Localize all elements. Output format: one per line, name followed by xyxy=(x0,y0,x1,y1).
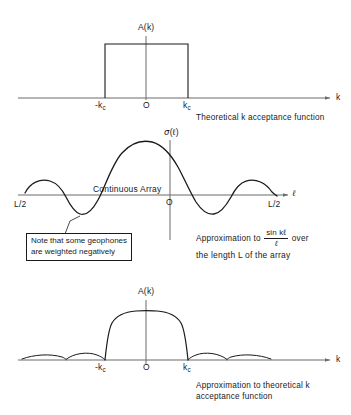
figure-container: A(k) k -kc O kc Theoretical k acceptance… xyxy=(0,0,351,415)
sinc-fraction: sin kℓ ℓ xyxy=(264,228,288,248)
top-x-axis-arrow xyxy=(325,96,330,100)
bottom-caption-line-1: Approximation to theoretical k xyxy=(196,381,310,390)
left-outer-sidelobe xyxy=(22,355,66,360)
bottom-caption-line-2: acceptance function xyxy=(196,392,310,401)
mid-right-end-label: L/2 xyxy=(268,200,280,210)
right-inner-sidelobe xyxy=(188,353,227,359)
sinc-weighting-curve xyxy=(25,141,277,214)
panel-continuous-array-weighting: σ(ℓ) ℓ Continuous Array O L/2 L/2 Note t… xyxy=(0,120,351,270)
bottom-x-axis-label: k xyxy=(336,355,340,365)
bottom-tick-label-origin: O xyxy=(143,363,150,373)
top-panel-plot xyxy=(0,0,351,120)
top-x-axis-label: k xyxy=(336,93,340,103)
bottom-tick-kc-sub: c xyxy=(187,366,190,373)
mid-caption-prefix: Approximation to xyxy=(196,234,261,243)
bottom-x-axis-arrow xyxy=(325,358,330,362)
mid-y-axis-label: σ(ℓ) xyxy=(164,128,179,138)
right-outer-sidelobe xyxy=(227,355,271,360)
top-tick-label-origin: O xyxy=(143,101,150,111)
mid-panel-caption: Approximation to sin kℓ ℓ over the lengt… xyxy=(196,229,309,261)
continuous-array-label: Continuous Array xyxy=(93,185,161,195)
fraction-denominator: ℓ xyxy=(264,239,288,248)
bottom-tick-label-kc: kc xyxy=(183,363,191,373)
panel-theoretical-acceptance: A(k) k -kc O kc Theoretical k acceptance… xyxy=(0,0,351,120)
top-tick-kc-sub: c xyxy=(187,104,190,111)
bottom-y-axis-label: A(k) xyxy=(138,287,154,297)
mid-left-end-label: L/2 xyxy=(14,200,26,210)
top-tick-label-minus-kc: -kc xyxy=(95,101,106,111)
bottom-tick-label-minus-kc: -kc xyxy=(95,363,106,373)
geophone-note-callout: Note that some geophones are weighted ne… xyxy=(26,233,132,261)
mid-caption-line-1: Approximation to sin kℓ ℓ over xyxy=(196,229,309,249)
sigma-argument: (ℓ) xyxy=(170,127,179,137)
callout-line-2: are weighted negatively xyxy=(31,247,127,258)
callout-line-1: Note that some geophones xyxy=(31,236,127,247)
top-tick-label-kc: kc xyxy=(183,101,191,111)
mid-caption-suffix: over xyxy=(292,234,309,243)
panel-approximated-acceptance: A(k) k -kc O kc Approximation to theoret… xyxy=(0,268,351,415)
mid-x-axis-label: ℓ xyxy=(292,189,296,199)
top-tick-minus-kc-sub: c xyxy=(102,104,105,111)
left-inner-sidelobe xyxy=(66,353,105,359)
top-y-axis-label: A(k) xyxy=(138,23,154,33)
bottom-tick-minus-kc-sub: c xyxy=(102,366,105,373)
mid-origin-label: O xyxy=(166,198,173,208)
mid-caption-line-2: the length L of the array xyxy=(196,251,309,261)
mid-x-axis-arrow xyxy=(283,193,288,197)
fraction-numerator: sin kℓ xyxy=(264,228,288,237)
callout-leader-line xyxy=(65,216,80,234)
bottom-panel-caption: Approximation to theoretical k acceptanc… xyxy=(196,381,310,402)
